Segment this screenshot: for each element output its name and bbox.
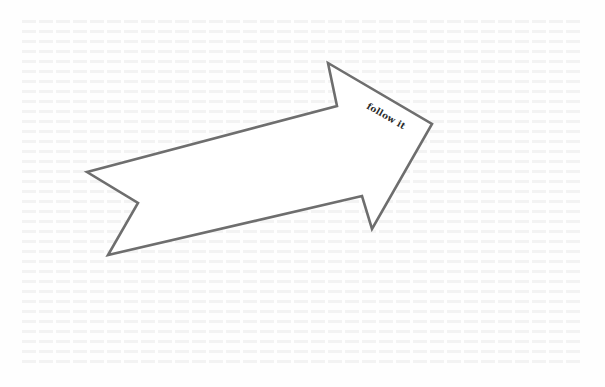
scanned-page: follow it bbox=[0, 0, 605, 387]
arrow-graphic bbox=[0, 0, 605, 387]
arrow-shape bbox=[87, 63, 432, 255]
